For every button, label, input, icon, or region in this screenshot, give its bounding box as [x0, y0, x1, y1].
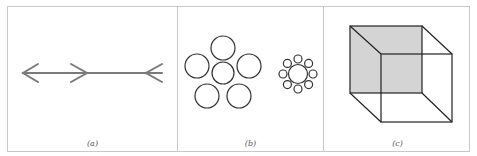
muller-lyer-illusion	[8, 7, 177, 153]
panel-b: (b)	[178, 7, 323, 151]
panel-c: (c)	[324, 7, 471, 151]
caption-c: (c)	[324, 139, 471, 148]
ebbinghaus-illusion	[178, 7, 323, 153]
figure-frame: (a) (b)	[7, 6, 470, 152]
panel-a: (a)	[8, 7, 177, 151]
necker-cube	[324, 7, 471, 153]
caption-a: (a)	[8, 139, 177, 148]
caption-b: (b)	[178, 139, 323, 148]
